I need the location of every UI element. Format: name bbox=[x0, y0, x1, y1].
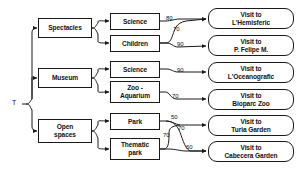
edge-weight-children-felipe: 90 bbox=[177, 41, 184, 47]
node-spectacles[interactable]: Spectacles bbox=[38, 18, 92, 38]
edge-open-spaces-thematic bbox=[92, 131, 109, 149]
leaf-cabecera-label: Visit to Cabecera Garden bbox=[224, 144, 277, 160]
edge-spectacles-children bbox=[92, 28, 109, 43]
leaf-oceanografic-label: Visit to L'Oceanografic bbox=[228, 65, 274, 81]
leaf-turia[interactable]: Visit to Turia Garden bbox=[208, 115, 294, 136]
edge-zoo-bioparc bbox=[160, 92, 206, 99]
leaf-oceanografic[interactable]: Visit to L'Oceanografic bbox=[208, 62, 294, 83]
node-science-museum[interactable]: Science bbox=[110, 61, 160, 78]
leaf-turia-label: Visit to Turia Garden bbox=[231, 118, 270, 134]
edge-museum-science bbox=[92, 69, 109, 78]
edge-weight-science1-hemisferic: 80 bbox=[166, 15, 173, 21]
edge-weight-park-turia: 50 bbox=[171, 114, 178, 120]
leaf-bioparc[interactable]: Visit to Bioparc Zoo bbox=[208, 89, 294, 110]
node-open-spaces[interactable]: Open spaces bbox=[38, 119, 92, 143]
node-thematic-park[interactable]: Thematic park bbox=[110, 138, 160, 160]
edge-weight-zoo-bioparc: 70 bbox=[172, 93, 179, 99]
edge-open-spaces-park bbox=[92, 121, 109, 131]
node-museum-label: Museum bbox=[52, 74, 78, 82]
node-park[interactable]: Park bbox=[110, 113, 160, 130]
edge-weight-children-hemisferic: 70 bbox=[173, 26, 180, 32]
edge-thematic-cabecera bbox=[160, 149, 206, 151]
root-node-label: T bbox=[12, 99, 16, 106]
node-science-spectacles-label: Science bbox=[123, 18, 147, 26]
edge-children-hemisferic bbox=[160, 19, 206, 43]
leaf-bioparc-label: Visit to Bioparc Zoo bbox=[232, 92, 269, 108]
decision-tree-diagram: T Spectacles Museum Open spaces Science … bbox=[0, 0, 300, 169]
edge-spectacles-science bbox=[92, 21, 109, 28]
edge-museum-zoo bbox=[92, 78, 109, 92]
node-spectacles-label: Spectacles bbox=[48, 24, 81, 32]
edge-weight-park-cabecera: 70 bbox=[178, 125, 185, 131]
edge-root-open-spaces bbox=[26, 104, 37, 131]
edge-weight-thematic-turia: 70 bbox=[163, 132, 170, 138]
node-zoo-aquarium-label: Zoo - Aquarium bbox=[120, 84, 150, 100]
edge-weight-thematic-cabecera: 60 bbox=[186, 144, 193, 150]
node-park-label: Park bbox=[128, 118, 142, 126]
leaf-cabecera[interactable]: Visit to Cabecera Garden bbox=[208, 141, 294, 162]
node-science-spectacles[interactable]: Science bbox=[110, 13, 160, 30]
node-open-spaces-label: Open spaces bbox=[54, 123, 76, 139]
node-children[interactable]: Children bbox=[110, 35, 160, 52]
leaf-hemisferic-label: Visit to L'Hemisferic bbox=[232, 11, 270, 27]
node-children-label: Children bbox=[122, 40, 148, 48]
leaf-felipe-label: Visit to P. Felipe M. bbox=[234, 38, 268, 54]
node-museum[interactable]: Museum bbox=[38, 68, 92, 88]
node-science-museum-label: Science bbox=[123, 66, 147, 74]
node-zoo-aquarium[interactable]: Zoo - Aquarium bbox=[110, 81, 160, 103]
edge-root-museum bbox=[32, 77, 37, 99]
edge-weight-science2-oceanografic: 90 bbox=[177, 67, 184, 73]
node-thematic-park-label: Thematic park bbox=[121, 141, 149, 157]
leaf-hemisferic[interactable]: Visit to L'Hemisferic bbox=[208, 8, 294, 29]
leaf-felipe[interactable]: Visit to P. Felipe M. bbox=[208, 35, 294, 56]
